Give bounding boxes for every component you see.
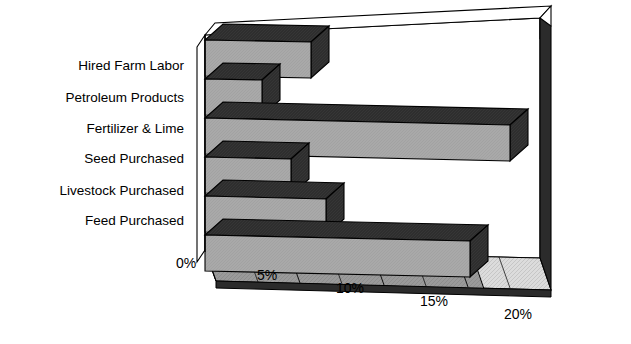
x-tick-label-0: 0% [176,256,196,271]
category-label-livestock-purchased: Livestock Purchased [0,184,184,198]
x-tick-label-10: 10% [336,281,364,296]
x-tick-label-20: 20% [504,307,532,322]
category-label-hired-farm-labor: Hired Farm Labor [0,59,184,73]
x-tick-label-15: 15% [420,294,448,309]
chart-left-wall-edge [197,35,205,262]
category-label-feed-purchased: Feed Purchased [0,214,184,228]
chart-container: Hired Farm Labor Petroleum Products Fert… [0,0,631,344]
category-label-fertilizer-and-lime: Fertilizer & Lime [0,122,184,136]
x-tick-label-5: 5% [257,268,277,283]
bar-feed-purchased[interactable] [205,219,488,277]
bar-chart-3d [0,0,631,344]
chart-right-wall [540,18,551,290]
category-label-petroleum-products: Petroleum Products [0,91,184,105]
category-label-seed-purchased: Seed Purchased [0,152,184,166]
